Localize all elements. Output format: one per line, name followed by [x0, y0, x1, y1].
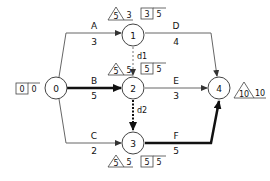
node-0: 0 — [45, 77, 67, 99]
activity-d-duration: 4 — [173, 37, 179, 47]
svg-text:5: 5 — [113, 12, 118, 21]
activity-f: F 5 — [145, 101, 219, 156]
activity-c-duration: 2 — [91, 146, 97, 156]
node-2-annotation: 5 5 5 5 — [108, 63, 166, 76]
activity-b: B 5 — [67, 76, 121, 101]
svg-text:3: 3 — [144, 10, 149, 19]
svg-text:3: 3 — [126, 11, 131, 20]
svg-text:5: 5 — [156, 158, 161, 167]
node-1: 1 — [122, 24, 144, 46]
svg-text:3: 3 — [130, 139, 136, 149]
dummy-d1-label: d1 — [137, 52, 147, 61]
node-3-annotation: 5 5 5 5 — [108, 155, 166, 168]
activity-e: E 3 — [145, 76, 207, 101]
activity-a: A 3 — [59, 21, 121, 77]
activity-d-name: D — [173, 21, 180, 31]
activity-a-duration: 3 — [91, 37, 97, 47]
svg-text:0: 0 — [19, 85, 24, 94]
svg-text:5: 5 — [126, 66, 131, 75]
activity-c: C 2 — [59, 99, 121, 156]
svg-text:0: 0 — [53, 84, 59, 94]
node-0-annotation: 0 0 — [16, 83, 40, 94]
svg-text:1: 1 — [130, 31, 136, 41]
node-1-annotation: 5 3 3 5 — [108, 7, 166, 21]
node-4: 4 — [208, 77, 230, 99]
activity-c-name: C — [91, 131, 97, 141]
activity-b-name: B — [91, 76, 97, 86]
activity-b-duration: 5 — [91, 91, 97, 101]
svg-text:5: 5 — [113, 159, 118, 168]
activity-a-name: A — [91, 21, 98, 31]
activity-f-name: F — [173, 131, 178, 141]
activity-e-duration: 3 — [173, 91, 179, 101]
svg-text:4: 4 — [216, 84, 222, 94]
svg-text:0: 0 — [31, 85, 36, 94]
svg-text:5: 5 — [144, 158, 149, 167]
network-diagram: A 3 B 5 C 2 D 4 E 3 F 5 d1 d2 — [0, 0, 270, 181]
dummy-d2: d2 — [133, 100, 147, 130]
svg-text:2: 2 — [130, 84, 136, 94]
activity-e-name: E — [173, 76, 179, 86]
dummy-d2-label: d2 — [137, 106, 147, 115]
activity-f-duration: 5 — [173, 146, 179, 156]
svg-text:5: 5 — [113, 67, 118, 76]
node-4-annotation: 10 10 — [234, 82, 266, 99]
node-3: 3 — [122, 132, 144, 154]
svg-text:5: 5 — [156, 65, 161, 74]
svg-text:5: 5 — [126, 158, 131, 167]
svg-text:5: 5 — [144, 65, 149, 74]
svg-text:5: 5 — [156, 10, 161, 19]
node-2: 2 — [122, 77, 144, 99]
svg-text:10: 10 — [255, 89, 265, 98]
svg-text:10: 10 — [239, 90, 249, 99]
